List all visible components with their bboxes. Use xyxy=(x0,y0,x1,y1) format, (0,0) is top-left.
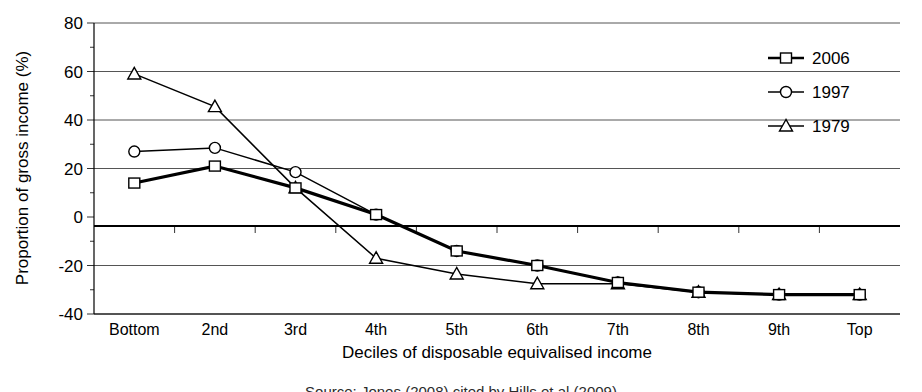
income-deciles-line-chart: -40-20020406080 Bottom2nd3rd4th5th6th7th… xyxy=(0,0,922,360)
datapoint-2006-3rd xyxy=(290,183,301,193)
y-tick-label--20: -20 xyxy=(58,257,83,276)
x-axis-title: Deciles of disposable equivalised income xyxy=(342,343,652,360)
x-tick-label-9th: 9th xyxy=(768,321,790,338)
x-tick-label-8th: 8th xyxy=(687,321,709,338)
y-axis-ticks-group: -40-20020406080 xyxy=(58,14,94,324)
datapoint-2006-5th xyxy=(451,246,462,256)
x-axis-ticks-group: Bottom2nd3rd4th5th6th7th8th9thTop xyxy=(109,226,873,338)
datapoint-1979-Bottom xyxy=(128,67,141,79)
x-tick-label-5th: 5th xyxy=(446,321,468,338)
legend-marker-1997 xyxy=(781,87,792,98)
datapoint-1997-3rd xyxy=(290,167,301,178)
y-axis-title: Proportion of gross income (%) xyxy=(13,51,32,285)
legend: 200619971979 xyxy=(768,49,850,136)
y-tick-label-0: 0 xyxy=(74,208,83,227)
datapoint-1979-2nd xyxy=(208,100,221,112)
figure-source-caption: Source: Jones (2008) cited by Hills et a… xyxy=(0,382,922,392)
series-1979 xyxy=(128,67,866,299)
x-tick-label-top: Top xyxy=(847,321,873,338)
legend-label-2006: 2006 xyxy=(812,49,850,68)
y-tick-label-60: 60 xyxy=(64,63,83,82)
x-tick-label-3rd: 3rd xyxy=(284,321,307,338)
x-tick-label-2nd: 2nd xyxy=(202,321,229,338)
chart-figure: -40-20020406080 Bottom2nd3rd4th5th6th7th… xyxy=(0,0,922,392)
datapoint-2006-7th xyxy=(612,277,623,287)
legend-item-2006[interactable]: 2006 xyxy=(768,49,850,68)
y-tick-label-20: 20 xyxy=(64,160,83,179)
series-1997 xyxy=(129,142,865,300)
y-tick-label-80: 80 xyxy=(64,14,83,33)
datapoint-1997-2nd xyxy=(209,142,220,153)
legend-marker-2006 xyxy=(781,53,792,63)
series-line-1997 xyxy=(134,148,859,295)
x-tick-label-bottom: Bottom xyxy=(109,321,160,338)
series-line-1979 xyxy=(134,74,859,295)
y-tick-label-40: 40 xyxy=(64,111,83,130)
legend-label-1997: 1997 xyxy=(812,83,850,102)
legend-label-1979: 1979 xyxy=(812,117,850,136)
x-tick-label-7th: 7th xyxy=(607,321,629,338)
datapoint-1997-Bottom xyxy=(129,146,140,157)
datapoint-2006-Top xyxy=(854,290,865,300)
y-tick-label--40: -40 xyxy=(58,305,83,324)
datapoint-2006-6th xyxy=(532,261,543,271)
datapoint-2006-Bottom xyxy=(129,178,140,188)
datapoint-2006-9th xyxy=(774,290,785,300)
x-tick-label-4th: 4th xyxy=(365,321,387,338)
datapoint-2006-8th xyxy=(693,287,704,297)
datapoint-2006-2nd xyxy=(209,161,220,171)
datapoint-2006-4th xyxy=(371,210,382,220)
legend-item-1997[interactable]: 1997 xyxy=(768,83,850,102)
x-tick-label-6th: 6th xyxy=(526,321,548,338)
